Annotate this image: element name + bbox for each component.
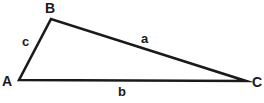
vertex-label-c: C xyxy=(252,75,262,89)
side-label-a: a xyxy=(141,32,148,45)
vertex-label-a: A xyxy=(2,74,12,88)
side-label-c: c xyxy=(22,35,29,48)
triangle-shape xyxy=(0,0,264,103)
triangle-outline xyxy=(19,19,246,81)
triangle-figure: A B C a b c xyxy=(0,0,264,103)
vertex-label-b: B xyxy=(45,1,55,15)
side-label-b: b xyxy=(118,85,126,98)
